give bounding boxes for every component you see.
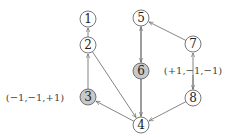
node-label: 2: [84, 38, 92, 52]
graph-diagram: 12345678 (−1,−1,+1)(+1,−1,−1): [0, 0, 226, 138]
edge-4-to-3: [96, 101, 134, 121]
node-1: 1: [80, 11, 96, 27]
node-6: 6: [133, 63, 149, 79]
node-label: 6: [137, 64, 145, 78]
node-7: 7: [185, 36, 201, 52]
edge-2-to-4: [92, 52, 136, 118]
node-3: 3: [80, 89, 96, 105]
annotation-left: (−1,−1,+1): [6, 92, 64, 103]
edge-7-to-5: [149, 22, 186, 40]
node-label: 8: [189, 91, 197, 105]
node-label: 7: [189, 37, 197, 51]
node-4: 4: [133, 117, 149, 133]
edge-8-to-4: [149, 102, 186, 121]
node-8: 8: [185, 90, 201, 106]
node-label: 3: [84, 90, 92, 104]
node-label: 1: [84, 12, 92, 26]
node-2: 2: [80, 37, 96, 53]
node-label: 5: [137, 11, 145, 25]
node-5: 5: [133, 10, 149, 26]
graph-svg: 12345678 (−1,−1,+1)(+1,−1,−1): [0, 0, 226, 138]
annotation-right: (+1,−1,−1): [164, 65, 222, 76]
node-label: 4: [137, 118, 145, 132]
